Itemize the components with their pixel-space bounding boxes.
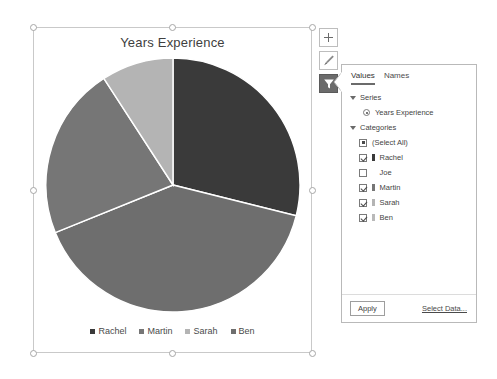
category-label: (Select All) [372,138,408,147]
category-label: Ben [380,213,393,222]
legend-label: Ben [239,326,255,336]
resize-handle-bottom-center[interactable] [169,350,176,357]
resize-handle-middle-right[interactable] [309,187,316,194]
legend-swatch-icon [139,329,144,334]
legend-label: Rachel [98,326,126,336]
select-data-link[interactable]: Select Data... [422,304,467,313]
collapse-triangle-icon [350,96,356,100]
filter-panel-callout-tail [333,72,342,92]
pie-slice-group [46,58,300,312]
tab-values[interactable]: Values [351,71,375,85]
series-group-header[interactable]: Series [350,93,470,102]
category-item-joe[interactable]: Joe [359,168,470,177]
category-swatch-placeholder [372,169,375,176]
resize-handle-top-center[interactable] [169,24,176,31]
checkbox-icon[interactable] [359,169,367,177]
panel-footer: Apply Select Data... [342,294,476,322]
checkbox-icon[interactable] [359,184,367,192]
category-item-sarah[interactable]: Sarah [359,198,470,207]
plus-icon [323,32,334,43]
pie-chart-plot-area[interactable] [34,56,311,318]
resize-handle-bottom-left[interactable] [30,350,37,357]
series-group-label: Series [360,93,381,102]
category-label: Joe [380,168,392,177]
categories-group-label: Categories [360,123,396,132]
legend-swatch-icon [90,329,95,334]
series-option-years-experience[interactable]: Years Experience [363,108,470,117]
legend-item[interactable]: Sarah [185,326,217,336]
resize-handle-bottom-right[interactable] [309,350,316,357]
checkbox-icon[interactable] [359,199,367,207]
chart-legend[interactable]: Rachel Martin Sarah Ben [34,326,311,336]
resize-handle-middle-left[interactable] [30,187,37,194]
resize-handle-top-left[interactable] [30,24,37,31]
category-label: Martin [380,183,401,192]
series-option-label: Years Experience [375,108,434,117]
chart-title[interactable]: Years Experience [34,35,311,50]
checkbox-icon[interactable] [359,214,367,222]
chart-object-frame[interactable]: Years Experience Rachel Martin Sarah Ben [33,27,312,353]
category-swatch-icon [372,184,375,191]
category-item-ben[interactable]: Ben [359,213,470,222]
chart-styles-button[interactable] [319,51,338,70]
radio-icon[interactable] [363,109,370,116]
category-label: Rachel [380,153,403,162]
chart-filters-panel[interactable]: Values Names Series Years Experience Cat… [341,64,477,323]
collapse-triangle-icon [350,126,356,130]
legend-item[interactable]: Martin [139,326,172,336]
category-swatch-icon [372,214,375,221]
legend-item[interactable]: Ben [231,326,255,336]
category-item-select-all[interactable]: (Select All) [359,138,470,147]
category-item-rachel[interactable]: Rachel [359,153,470,162]
checkbox-icon[interactable] [359,154,367,162]
tab-names[interactable]: Names [384,71,409,85]
checkbox-icon[interactable] [359,139,367,147]
apply-button[interactable]: Apply [350,301,385,316]
legend-item[interactable]: Rachel [90,326,126,336]
legend-label: Sarah [193,326,217,336]
categories-group-header[interactable]: Categories [350,123,470,132]
brush-icon [322,54,335,67]
panel-body: Series Years Experience Categories (Sele… [342,85,476,280]
category-item-martin[interactable]: Martin [359,183,470,192]
legend-swatch-icon [185,329,190,334]
resize-handle-top-right[interactable] [309,24,316,31]
category-swatch-icon [372,154,375,161]
legend-label: Martin [147,326,172,336]
category-label: Sarah [380,198,400,207]
panel-tab-strip: Values Names [342,65,476,85]
chart-elements-button[interactable] [319,28,338,47]
category-swatch-icon [372,199,375,206]
pie-svg [44,56,302,314]
legend-swatch-icon [231,329,236,334]
chart-editing-canvas: Years Experience Rachel Martin Sarah Ben [0,0,497,379]
